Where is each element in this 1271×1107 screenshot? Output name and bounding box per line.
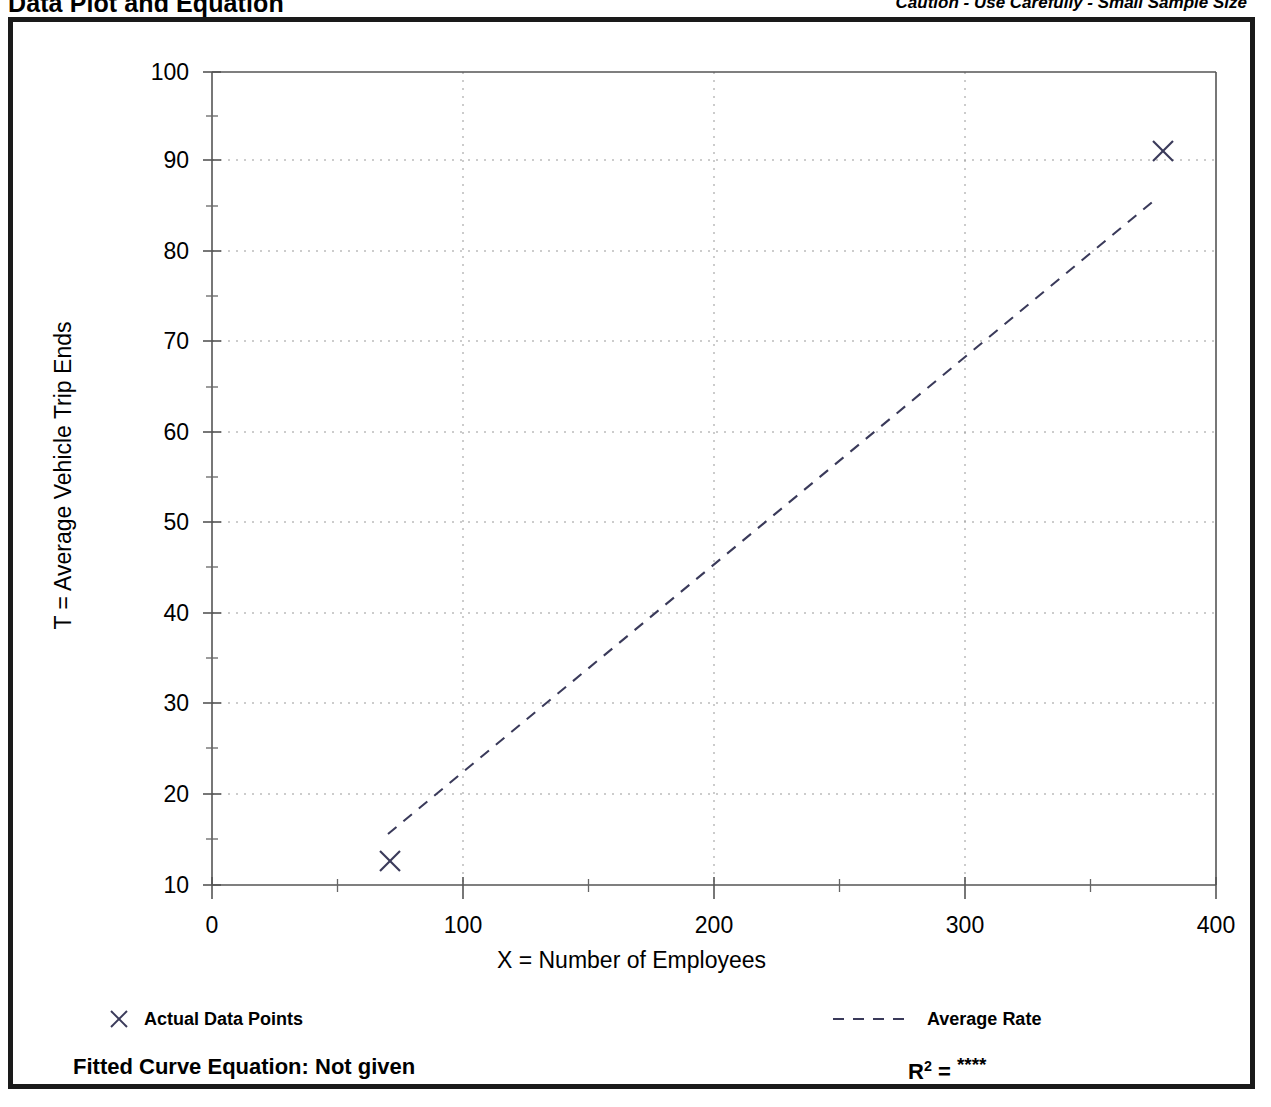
y-axis-title: T = Average Vehicle Trip Ends (50, 266, 77, 686)
x-tick-label: 300 (946, 912, 984, 938)
page-header: Data Plot and Equation Caution - Use Car… (0, 0, 1271, 17)
y-tick-label: 20 (163, 781, 189, 807)
x-tick-label: 0 (206, 912, 219, 938)
y-tick-label: 70 (163, 328, 189, 354)
data-point-marker (1153, 141, 1173, 161)
y-tick-label: 80 (163, 238, 189, 264)
average-rate-line (388, 199, 1156, 834)
grid-vertical (463, 72, 965, 885)
r-squared-exponent: 2 (924, 1058, 932, 1074)
x-axis-major-ticks (212, 877, 1216, 899)
y-tick-label: 50 (163, 509, 189, 535)
y-tick-label: 30 (163, 690, 189, 716)
y-axis-tick-labels: 100 90 80 70 60 50 40 30 20 10 (151, 59, 189, 898)
x-axis-title: X = Number of Employees (13, 947, 1250, 974)
legend-label-data-points: Actual Data Points (144, 1009, 303, 1030)
equation-row: Fitted Curve Equation: Not given R2 = **… (13, 1052, 1250, 1086)
data-point-markers (380, 141, 1173, 871)
y-tick-label: 10 (163, 872, 189, 898)
grid-horizontal (212, 160, 1216, 794)
x-tick-label: 200 (695, 912, 733, 938)
chart-legend: Actual Data Points Average Rate (13, 1002, 1250, 1036)
y-tick-label: 60 (163, 419, 189, 445)
r-squared-block: R2 = **** (908, 1054, 987, 1085)
chart-region: 100 90 80 70 60 50 40 30 20 10 0 100 200… (13, 22, 1250, 1084)
caution-note: Caution - Use Carefully - Small Sample S… (896, 0, 1247, 13)
page-title: Data Plot and Equation (8, 0, 284, 17)
r-squared-symbol: R (908, 1059, 924, 1084)
x-marker-icon (108, 1008, 130, 1030)
x-tick-label: 100 (444, 912, 482, 938)
legend-item-data-points: Actual Data Points (108, 1002, 303, 1036)
x-axis-tick-labels: 0 100 200 300 400 (206, 912, 1236, 938)
dashed-line-icon (833, 1018, 911, 1020)
scatter-plot: 100 90 80 70 60 50 40 30 20 10 0 100 200… (13, 22, 1250, 1084)
y-tick-label: 100 (151, 59, 189, 85)
legend-label-average-rate: Average Rate (927, 1009, 1041, 1030)
fitted-curve-equation: Fitted Curve Equation: Not given (73, 1054, 415, 1080)
data-point-marker (380, 851, 400, 871)
chart-frame: 100 90 80 70 60 50 40 30 20 10 0 100 200… (8, 17, 1255, 1089)
y-tick-label: 40 (163, 600, 189, 626)
x-tick-label: 400 (1197, 912, 1235, 938)
r-squared-equals: = (932, 1059, 957, 1084)
legend-item-average-rate: Average Rate (833, 1002, 1041, 1036)
r-squared-value: **** (957, 1054, 987, 1075)
y-tick-label: 90 (163, 147, 189, 173)
